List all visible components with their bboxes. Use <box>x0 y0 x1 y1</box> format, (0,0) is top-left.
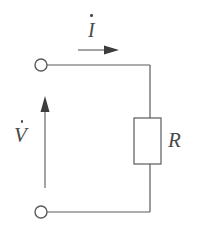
circuit-diagram-figure: I V R <box>0 0 199 238</box>
current-phasor-label: I <box>88 14 95 40</box>
voltage-phasor-label: V <box>14 120 27 146</box>
voltage-symbol: V <box>14 125 27 146</box>
circuit-schematic-canvas <box>0 0 199 238</box>
current-dot-accent-icon <box>90 14 93 17</box>
resistor-label: R <box>168 130 181 151</box>
terminal-top <box>35 59 47 71</box>
resistor-body <box>134 118 161 164</box>
current-arrow-head <box>104 46 119 55</box>
current-symbol: I <box>88 20 95 40</box>
voltage-arrow-head <box>41 96 50 112</box>
terminal-bottom <box>35 206 47 218</box>
